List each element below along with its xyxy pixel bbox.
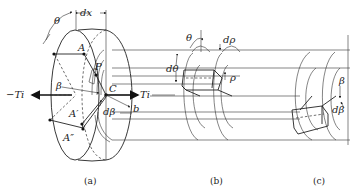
axial-lines (106, 10, 350, 160)
label-C: C (109, 83, 117, 94)
caption-c: (c) (313, 176, 325, 186)
torsion-diagram: dx θ −Ti Ti β dβ b A P C A′ A″ (0, 0, 350, 193)
label-A-double-prime: A″ (62, 132, 74, 143)
label-pos-torque: Ti (140, 89, 150, 100)
label-theta-b: θ (186, 32, 192, 43)
label-dbeta-c: dβ (332, 104, 344, 115)
theta-arc-a: θ (43, 12, 72, 44)
label-neg-torque: −Ti (6, 89, 24, 100)
label-dx: dx (80, 7, 92, 18)
panel-b: θ dρ dθ ρ (166, 32, 240, 140)
label-theta-a: θ (54, 15, 60, 26)
label-rho-b: ρ (229, 72, 236, 83)
label-dtheta-b: dθ (166, 63, 178, 74)
label-drho-b: dρ (223, 34, 235, 45)
torque-arrows: −Ti Ti (6, 89, 175, 100)
label-b: b (133, 103, 139, 114)
dx-dimension: dx (76, 7, 106, 30)
caption-b: (b) (210, 176, 223, 186)
point-labels-a: A P C A′ A″ (62, 42, 117, 143)
label-dbeta-a: dβ (103, 106, 115, 117)
label-beta-a: β (55, 80, 62, 91)
label-A-prime: A′ (68, 108, 79, 119)
label-beta-c: β (338, 75, 345, 86)
label-A: A (77, 42, 85, 53)
label-P: P (94, 61, 102, 72)
caption-a: (a) (84, 176, 96, 186)
